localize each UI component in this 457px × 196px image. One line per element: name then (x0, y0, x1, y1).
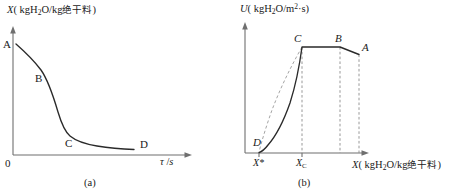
chart-a-point-label-B: B (35, 73, 42, 84)
chart-a-y-axis-title: X( kgH2O/kg绝干料) (7, 5, 96, 16)
chart-b-caption: (b) (298, 178, 310, 189)
chart-b-xtick-label-xc: XC (296, 158, 307, 170)
chart-b-point-label-B: B (335, 33, 342, 44)
chart-b-x-axis-arrowhead (362, 150, 370, 156)
chart-a-x-axis-title: τ /s (160, 157, 173, 168)
chart-a-caption: (a) (84, 178, 96, 189)
figure-root: X( kgH2O/kg绝干料) A B C D 0 τ /s (a) (0, 0, 457, 196)
chart-a-point-label-D: D (140, 139, 148, 150)
chart-a-point-label-A: A (3, 39, 11, 50)
chart-a-drying-curve (16, 44, 134, 150)
chart-panel-b: U( kgH2O/m2·s) C B A D X* XC X( kgH2O/kg… (228, 0, 457, 196)
chart-b-point-label-A: A (362, 42, 369, 53)
chart-b-x-axis-title: X( kgH2O/kg绝干料) (352, 160, 441, 171)
chart-b-y-axis-arrowhead (242, 22, 248, 30)
chart-a-x-axis-arrowhead (185, 152, 193, 158)
chart-b-xtick-label-xstar: X* (253, 158, 264, 168)
chart-b-xtick-label-xc-sub: C (302, 162, 307, 170)
chart-a-svg (0, 0, 228, 196)
chart-b-drying-rate-curve (259, 47, 359, 153)
chart-panel-a: X( kgH2O/kg绝干料) A B C D 0 τ /s (a) (0, 0, 228, 196)
chart-a-point-label-C: C (65, 138, 72, 149)
chart-a-origin-label: 0 (5, 158, 11, 169)
chart-b-auxiliary-dashed-curve (259, 47, 302, 152)
chart-b-point-label-D: D (253, 137, 261, 148)
chart-b-y-axis-title: U( kgH2O/m2·s) (240, 3, 309, 15)
chart-b-point-label-C: C (294, 33, 301, 44)
chart-a-y-axis-arrowhead (10, 26, 16, 34)
